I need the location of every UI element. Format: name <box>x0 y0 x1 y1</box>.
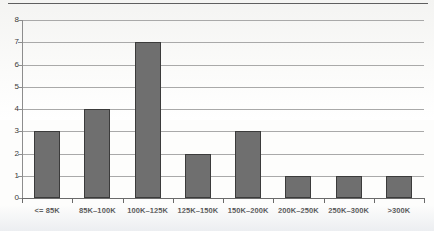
x-axis-tick-label: 125K–150K <box>173 206 223 215</box>
gridline <box>22 154 424 155</box>
x-axis-tick <box>273 198 274 203</box>
x-axis-tick <box>223 198 224 203</box>
x-axis-tick-label: >300K <box>374 206 424 215</box>
y-axis-tick-label: 0 <box>5 193 19 202</box>
gridline <box>22 65 424 66</box>
bar <box>336 176 362 198</box>
bar <box>84 109 110 198</box>
y-axis-tick-label: 2 <box>5 149 19 158</box>
y-axis-tick-label: 6 <box>5 60 19 69</box>
bar <box>386 176 412 198</box>
x-axis-tick <box>123 198 124 203</box>
gridline <box>22 87 424 88</box>
gridline <box>22 20 424 21</box>
x-axis-tick <box>324 198 325 203</box>
top-horizontal-rule <box>8 3 428 4</box>
y-axis-tick-label: 4 <box>5 104 19 113</box>
y-axis-tick-label: 7 <box>5 37 19 46</box>
x-axis-tick-label: 200K–250K <box>273 206 323 215</box>
chart-figure: 012345678 <= 85K85K–100K100K–125K125K–15… <box>0 0 434 231</box>
y-axis-tick-label: 8 <box>5 15 19 24</box>
plot-area <box>22 20 424 198</box>
y-axis-line <box>22 20 23 199</box>
x-axis-tick-label: 150K–200K <box>223 206 273 215</box>
gridline <box>22 176 424 177</box>
x-axis-tick <box>72 198 73 203</box>
gridline <box>22 131 424 132</box>
x-axis-tick-label: 250K–300K <box>324 206 374 215</box>
y-axis-tick-label: 3 <box>5 126 19 135</box>
x-axis-tick <box>22 198 23 203</box>
bar <box>235 131 261 198</box>
y-axis-tick-label: 1 <box>5 171 19 180</box>
gridline <box>22 42 424 43</box>
bar <box>285 176 311 198</box>
x-axis-tick-label: 100K–125K <box>123 206 173 215</box>
x-axis-tick <box>374 198 375 203</box>
x-axis-tick <box>173 198 174 203</box>
x-axis-tick-label: 85K–100K <box>72 206 122 215</box>
y-axis-tick-label: 5 <box>5 82 19 91</box>
x-axis-tick <box>424 198 425 203</box>
bar <box>185 154 211 199</box>
x-axis-tick-label: <= 85K <box>22 206 72 215</box>
y-axis-tick-labels: 012345678 <box>0 20 19 199</box>
gridline <box>22 109 424 110</box>
bar <box>135 42 161 198</box>
bar <box>34 131 60 198</box>
